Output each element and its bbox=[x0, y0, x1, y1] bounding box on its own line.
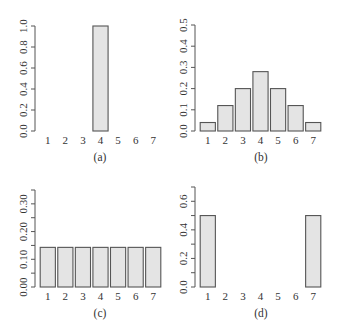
panel-caption: (b) bbox=[254, 151, 268, 164]
x-tick-label: 7 bbox=[150, 290, 156, 302]
bar-1 bbox=[200, 216, 215, 287]
x-tick-label: 3 bbox=[240, 134, 246, 146]
x-tick-label: 4 bbox=[98, 134, 104, 146]
x-tick-label: 1 bbox=[45, 134, 51, 146]
x-tick-label: 7 bbox=[310, 134, 316, 146]
bar-1 bbox=[200, 123, 215, 131]
x-tick-label: 4 bbox=[98, 290, 104, 302]
bar-6 bbox=[128, 247, 143, 287]
bar-3 bbox=[75, 247, 90, 287]
y-tick-label: 0.4 bbox=[17, 82, 29, 96]
x-tick-label: 6 bbox=[133, 134, 139, 146]
y-tick-label: 0.4 bbox=[177, 39, 189, 53]
panel-b: 0.00.10.20.30.40.51234567(b) bbox=[177, 18, 321, 164]
bar-6 bbox=[288, 106, 303, 131]
x-tick-label: 2 bbox=[63, 290, 69, 302]
y-tick-label: 1.0 bbox=[17, 19, 29, 33]
x-tick-label: 4 bbox=[258, 290, 264, 302]
x-tick-label: 2 bbox=[223, 290, 229, 302]
bar-7 bbox=[306, 216, 321, 287]
y-tick-label: 0.0 bbox=[177, 280, 189, 294]
y-tick-label: 0.6 bbox=[17, 61, 29, 75]
panel-d: 0.00.20.40.61234567(d) bbox=[177, 187, 321, 320]
figure: 0.00.20.40.60.81.01234567(a) 0.00.10.20.… bbox=[0, 0, 337, 333]
x-tick-label: 1 bbox=[45, 290, 51, 302]
bar-4 bbox=[253, 72, 268, 131]
x-tick-label: 4 bbox=[258, 134, 264, 146]
y-tick-label: 0.4 bbox=[177, 222, 189, 236]
x-tick-label: 1 bbox=[205, 290, 211, 302]
bar-7 bbox=[146, 247, 161, 287]
x-tick-label: 7 bbox=[310, 290, 316, 302]
x-tick-label: 1 bbox=[205, 134, 211, 146]
y-tick-label: 0.8 bbox=[17, 40, 29, 54]
y-tick-label: 0.1 bbox=[177, 103, 189, 117]
y-tick-label: 0.3 bbox=[177, 60, 189, 74]
x-tick-label: 5 bbox=[115, 290, 121, 302]
y-tick-label: 0.0 bbox=[17, 124, 29, 138]
bar-2 bbox=[58, 247, 73, 287]
x-tick-label: 2 bbox=[63, 134, 69, 146]
panel-a: 0.00.20.40.60.81.01234567(a) bbox=[17, 19, 156, 164]
panel-caption: (c) bbox=[94, 307, 107, 320]
x-tick-label: 3 bbox=[240, 290, 246, 302]
x-tick-label: 3 bbox=[80, 134, 86, 146]
y-tick-label: 0.20 bbox=[17, 221, 29, 241]
bar-4 bbox=[93, 247, 108, 287]
x-tick-label: 6 bbox=[293, 290, 299, 302]
y-tick-label: 0.10 bbox=[17, 249, 29, 269]
y-tick-label: 0.2 bbox=[17, 103, 29, 117]
x-tick-label: 5 bbox=[275, 134, 281, 146]
panel-c: 0.000.100.200.301234567(c) bbox=[17, 190, 161, 320]
x-tick-label: 5 bbox=[115, 134, 121, 146]
x-tick-label: 5 bbox=[275, 290, 281, 302]
y-tick-label: 0.6 bbox=[177, 194, 189, 208]
y-tick-label: 0.0 bbox=[177, 124, 189, 138]
x-tick-label: 6 bbox=[293, 134, 299, 146]
bar-7 bbox=[306, 123, 321, 131]
y-tick-label: 0.5 bbox=[177, 18, 189, 32]
bar-2 bbox=[218, 106, 233, 131]
x-tick-label: 2 bbox=[223, 134, 229, 146]
bar-3 bbox=[235, 89, 250, 131]
y-tick-label: 0.00 bbox=[17, 277, 29, 297]
x-tick-label: 7 bbox=[150, 134, 156, 146]
bar-1 bbox=[40, 247, 55, 287]
panel-caption: (a) bbox=[94, 151, 107, 164]
x-tick-label: 3 bbox=[80, 290, 86, 302]
bar-5 bbox=[270, 89, 285, 131]
y-tick-label: 0.30 bbox=[17, 194, 29, 214]
y-tick-label: 0.2 bbox=[177, 82, 189, 96]
x-tick-label: 6 bbox=[133, 290, 139, 302]
panel-caption: (d) bbox=[254, 307, 268, 320]
bar-5 bbox=[110, 247, 125, 287]
bar-4 bbox=[93, 26, 108, 131]
y-tick-label: 0.2 bbox=[177, 252, 189, 266]
